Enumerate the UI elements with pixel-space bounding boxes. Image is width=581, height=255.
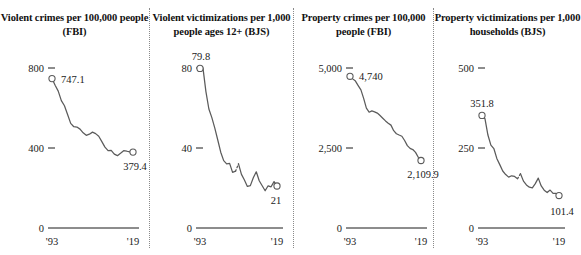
x-axis-tick-label-end: '19 bbox=[553, 236, 565, 247]
start-point-marker bbox=[197, 65, 203, 71]
start-point-marker bbox=[479, 112, 485, 118]
x-axis-tick-label-start: '93 bbox=[476, 236, 488, 247]
end-point-marker bbox=[418, 157, 424, 163]
y-axis-tick-label: 400 bbox=[28, 143, 44, 154]
panel-property-victimizations: Property victimizations per 1,000 househ… bbox=[434, 0, 581, 255]
panel-violent-crimes: Violent crimes per 100,000 people (FBI) … bbox=[0, 0, 149, 255]
y-axis-tick-label: 500 bbox=[458, 63, 474, 74]
series-line bbox=[200, 68, 236, 173]
end-point-marker bbox=[556, 192, 562, 198]
start-point-marker bbox=[49, 75, 55, 81]
line-chart-property-crimes: 5,0002,5000'93'194,7402,109.9 bbox=[294, 0, 433, 255]
end-point-value-label: 21 bbox=[271, 195, 282, 206]
series-line bbox=[52, 79, 133, 156]
line-chart-property-victimizations: 5002500'93'19351.8101.4 bbox=[434, 0, 581, 255]
start-point-value-label: 79.8 bbox=[192, 51, 210, 62]
series-line-break-segment bbox=[236, 164, 239, 171]
y-axis-tick-label: 800 bbox=[28, 63, 44, 74]
end-point-marker bbox=[130, 149, 136, 155]
panel-violent-victimizations: Violent victimizations per 1,000 people … bbox=[150, 0, 293, 255]
x-axis-tick-label-end: '19 bbox=[415, 236, 427, 247]
line-chart-violent-crimes: 8004000'93'19747.1379.4 bbox=[0, 0, 149, 255]
panel-property-crimes: Property crimes per 100,000 people (FBI)… bbox=[294, 0, 433, 255]
end-point-value-label: 379.4 bbox=[123, 161, 147, 172]
x-axis-tick-label-start: '93 bbox=[46, 236, 58, 247]
x-axis-tick-label-start: '93 bbox=[194, 236, 206, 247]
series-line bbox=[482, 115, 518, 178]
y-axis-tick-label: 0 bbox=[187, 223, 192, 234]
end-point-value-label: 101.4 bbox=[550, 206, 574, 217]
start-point-value-label: 4,740 bbox=[359, 71, 383, 82]
crime-trend-small-multiples: Violent crimes per 100,000 people (FBI) … bbox=[0, 0, 581, 255]
x-axis-tick-label-start: '93 bbox=[344, 236, 356, 247]
start-point-value-label: 747.1 bbox=[61, 74, 85, 85]
end-point-marker bbox=[274, 183, 280, 189]
start-point-value-label: 351.8 bbox=[470, 98, 494, 109]
y-axis-tick-label: 5,000 bbox=[318, 63, 342, 74]
y-axis-tick-label: 250 bbox=[458, 143, 474, 154]
y-axis-tick-label: 40 bbox=[182, 143, 193, 154]
y-axis-tick-label: 0 bbox=[337, 223, 342, 234]
y-axis-tick-label: 80 bbox=[182, 63, 193, 74]
line-chart-violent-victimizations: 80400'93'1979.821 bbox=[150, 0, 293, 255]
series-line bbox=[350, 76, 421, 160]
y-axis-tick-label: 0 bbox=[39, 223, 44, 234]
series-line bbox=[521, 174, 560, 196]
series-line-break-segment bbox=[518, 174, 521, 179]
x-axis-tick-label-end: '19 bbox=[271, 236, 283, 247]
series-line bbox=[239, 164, 278, 191]
x-axis-tick-label-end: '19 bbox=[127, 236, 139, 247]
y-axis-tick-label: 0 bbox=[469, 223, 474, 234]
y-axis-tick-label: 2,500 bbox=[318, 143, 342, 154]
start-point-marker bbox=[347, 73, 353, 79]
